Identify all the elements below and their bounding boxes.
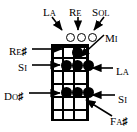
chord-diagram-figure: LA RE SOL RE♯ SI DO♯ MI LA SI FA♯: [0, 0, 137, 132]
arrow-fa-sharp: [86, 100, 112, 116]
arrow-mi: [80, 35, 104, 57]
arrow-overlay: [0, 0, 137, 132]
arrow-sol-top: [94, 17, 104, 30]
arrow-la-top: [52, 17, 62, 30]
